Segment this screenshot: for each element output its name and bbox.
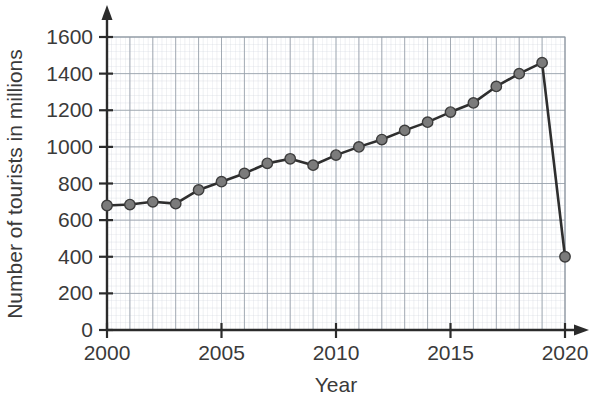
x-axis-tick-label: 2005 — [198, 341, 245, 364]
data-point-marker — [537, 57, 547, 67]
data-point-marker — [148, 197, 158, 207]
y-axis-tick-label: 800 — [58, 172, 93, 195]
data-point-marker — [560, 252, 570, 262]
data-point-marker — [308, 160, 318, 170]
data-point-marker — [400, 125, 410, 135]
y-axis-tick-label: 1600 — [46, 25, 93, 48]
data-point-marker — [239, 168, 249, 178]
data-point-marker — [125, 199, 135, 209]
data-point-marker — [331, 150, 341, 160]
y-axis-tick-label: 600 — [58, 208, 93, 231]
data-point-marker — [193, 185, 203, 195]
data-point-marker — [377, 134, 387, 144]
x-axis-tick-label: 2010 — [313, 341, 360, 364]
y-axis-tick-labels: 02004006008001000120014001600 — [46, 25, 93, 341]
x-axis-arrow-icon — [574, 325, 589, 336]
data-point-marker — [468, 98, 478, 108]
y-axis-title: Number of tourists in millions — [3, 49, 26, 319]
chart-canvas: 02004006008001000120014001600 2000200520… — [0, 0, 592, 401]
y-axis-tick-label: 400 — [58, 245, 93, 268]
data-point-marker — [514, 68, 524, 78]
y-axis: 02004006008001000120014001600 — [46, 5, 113, 341]
y-axis-tick-label: 1400 — [46, 62, 93, 85]
x-axis: 20002005201020152020 — [84, 323, 589, 364]
data-point-marker — [216, 176, 226, 186]
x-axis-title: Year — [315, 373, 357, 396]
y-axis-arrow-icon — [102, 5, 113, 20]
y-axis-tick-label: 1200 — [46, 98, 93, 121]
y-axis-tick-label: 200 — [58, 281, 93, 304]
x-axis-tick-label: 2000 — [84, 341, 131, 364]
line-chart-figure: 02004006008001000120014001600 2000200520… — [0, 0, 592, 401]
data-point-marker — [171, 198, 181, 208]
x-axis-tick-labels: 20002005201020152020 — [84, 341, 589, 364]
y-axis-tick-label: 0 — [81, 318, 93, 341]
data-point-marker — [491, 81, 501, 91]
data-point-marker — [285, 154, 295, 164]
x-axis-tick-label: 2015 — [427, 341, 474, 364]
data-point-marker — [422, 117, 432, 127]
data-point-marker — [445, 107, 455, 117]
data-point-marker — [262, 158, 272, 168]
x-axis-tick-label: 2020 — [542, 341, 589, 364]
y-axis-tick-label: 1000 — [46, 135, 93, 158]
data-point-marker — [102, 200, 112, 210]
data-point-marker — [354, 142, 364, 152]
